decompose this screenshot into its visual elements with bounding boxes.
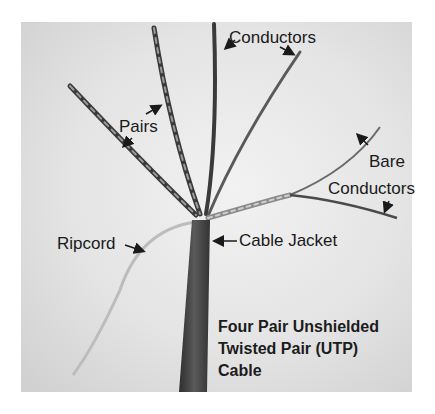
label-pairs: Pairs	[119, 117, 158, 136]
label-bare-line2: Conductors	[328, 179, 415, 198]
label-ripcord: Ripcord	[57, 234, 116, 253]
caption-line-1: Four Pair Unshielded	[218, 316, 379, 337]
cable-jacket	[179, 220, 210, 392]
cable-photo: Conductors Pairs Bare Conductors Ripcord…	[21, 22, 412, 392]
bare-conductor-lower	[290, 195, 397, 218]
twisted-pairs	[70, 24, 300, 218]
caption-line-2: Twisted Pair (UTP)	[218, 338, 358, 359]
label-cable-jacket: Cable Jacket	[239, 231, 337, 250]
caption-line-3: Cable	[218, 360, 262, 381]
label-conductors: Conductors	[229, 28, 316, 47]
label-bare-line1: Bare	[369, 152, 405, 171]
